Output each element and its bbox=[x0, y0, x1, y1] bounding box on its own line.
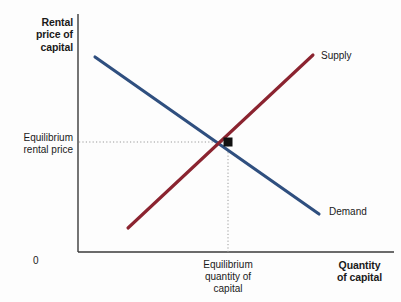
equilibrium-quantity-label: Equilibrium quantity of capital bbox=[173, 259, 283, 294]
demand-curve-label: Demand bbox=[329, 206, 367, 218]
supply-curve-label: Supply bbox=[321, 50, 352, 62]
equilibrium-rental-price-label: Equilibrium rental price bbox=[0, 132, 73, 156]
origin-label: 0 bbox=[33, 255, 39, 267]
supply-demand-chart: Rental price of capital Equilibrium rent… bbox=[0, 0, 401, 302]
x-axis-title: Quantity of capital bbox=[318, 259, 401, 284]
y-axis-title: Rental price of capital bbox=[0, 16, 73, 53]
supply-curve bbox=[128, 55, 313, 228]
equilibrium-point-marker bbox=[224, 138, 233, 147]
